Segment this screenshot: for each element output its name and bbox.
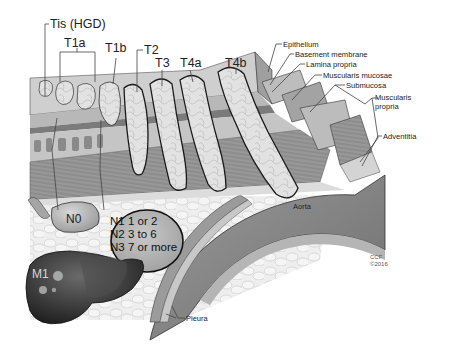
label-n3: N3 7 or more: [110, 241, 177, 253]
label-muscularis-propria-2: propria: [375, 102, 399, 111]
label-t3: T3: [155, 56, 170, 70]
label-pleura: Pleura: [186, 314, 209, 323]
label-adventitia: Adventitia: [383, 132, 417, 141]
label-tis: Tis (HGD): [50, 17, 106, 31]
label-t1b: T1b: [105, 41, 127, 55]
tumor-t1a-1: [56, 81, 74, 105]
label-epithelium: Epithelium: [283, 40, 318, 49]
label-n0: N0: [66, 212, 82, 226]
label-t2: T2: [144, 43, 159, 57]
label-m1: M1: [32, 267, 49, 281]
staging-diagram: Tis (HGD) T1a T1b T2 T3 T4a T4b Epitheli…: [0, 0, 449, 346]
label-basement-membrane: Basement membrane: [295, 50, 368, 59]
label-t4b: T4b: [225, 56, 247, 70]
label-n2: N2 3 to 6: [110, 228, 157, 240]
label-aorta: Aorta: [293, 202, 312, 211]
label-lamina-propria: Lamina propria: [306, 60, 357, 69]
label-muscularis-propria-1: Muscularis: [375, 93, 411, 102]
label-muscularis-mucosae: Muscularis mucosae: [323, 71, 392, 80]
label-n1: N1 1 or 2: [110, 215, 157, 227]
label-t1a: T1a: [64, 36, 86, 50]
credit-line-1: CCF: [370, 254, 383, 260]
tumor-tis: [39, 80, 53, 96]
label-t4a: T4a: [180, 56, 202, 70]
credit-line-2: ©2016: [370, 261, 388, 267]
tumor-t1a-2: [77, 83, 95, 109]
label-submucosa: Submucosa: [346, 81, 387, 90]
